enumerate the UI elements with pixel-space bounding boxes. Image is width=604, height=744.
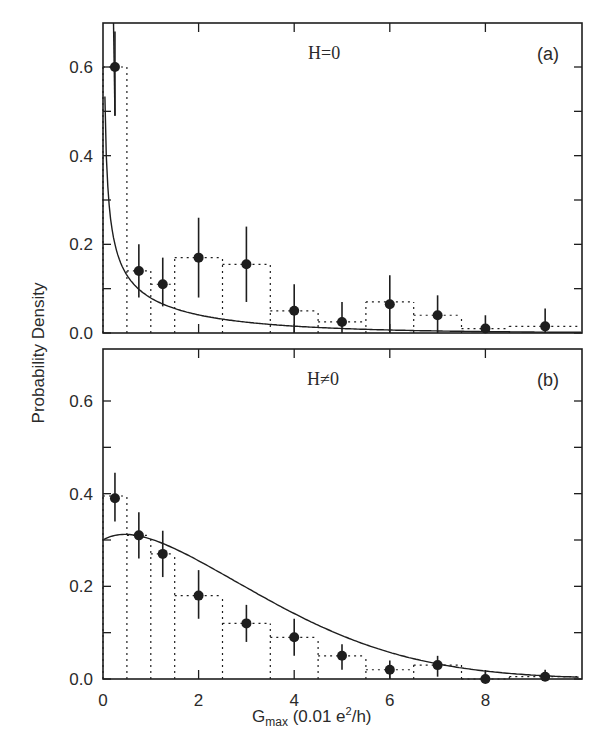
y-tick-label: 0.2 xyxy=(69,577,93,596)
y-tick-label: 0.6 xyxy=(69,58,93,77)
data-point xyxy=(158,279,168,289)
data-point xyxy=(540,672,550,682)
figure: 0.00.20.40.6 0.00.20.40.602468 Probabili… xyxy=(0,0,604,744)
data-point xyxy=(110,62,120,72)
panel-b: 0.00.20.40.602468 xyxy=(69,349,582,710)
panel-b-title: H≠0 xyxy=(307,369,339,389)
data-point xyxy=(158,549,168,559)
y-tick-label: 0.4 xyxy=(69,485,93,504)
data-point xyxy=(289,306,299,316)
data-point xyxy=(433,660,443,670)
y-tick-label: 0.6 xyxy=(69,392,93,411)
data-point xyxy=(433,310,443,320)
y-tick-label: 0.2 xyxy=(69,235,93,254)
x-tick-label: 0 xyxy=(98,691,107,710)
x-tick-label: 8 xyxy=(481,691,490,710)
data-point xyxy=(540,321,550,331)
panel-a-title: H=0 xyxy=(308,43,340,63)
data-point xyxy=(134,530,144,540)
axes-frame xyxy=(103,23,582,333)
data-point xyxy=(241,259,251,269)
data-point xyxy=(480,674,490,684)
histogram xyxy=(103,67,581,333)
data-point xyxy=(241,618,251,628)
data-point xyxy=(194,591,204,601)
data-point xyxy=(480,324,490,334)
panel-a-tag: (a) xyxy=(537,44,559,64)
fit-curve xyxy=(105,97,581,333)
panel-a: 0.00.20.40.6 xyxy=(69,23,582,343)
x-tick-label: 2 xyxy=(194,691,203,710)
data-point xyxy=(289,632,299,642)
y-axis-label: Probability Density xyxy=(29,282,48,423)
x-tick-label: 6 xyxy=(385,691,394,710)
panel-b-tag: (b) xyxy=(537,370,559,390)
data-point xyxy=(194,253,204,263)
data-point xyxy=(337,651,347,661)
data-point xyxy=(385,299,395,309)
y-tick-label: 0.0 xyxy=(69,324,93,343)
data-point xyxy=(110,493,120,503)
x-axis-label: Gmax (0.01 e2/h) xyxy=(252,705,372,729)
y-tick-label: 0.0 xyxy=(69,670,93,689)
y-tick-label: 0.4 xyxy=(69,147,93,166)
data-point xyxy=(134,266,144,276)
data-point xyxy=(337,317,347,327)
data-point xyxy=(385,665,395,675)
